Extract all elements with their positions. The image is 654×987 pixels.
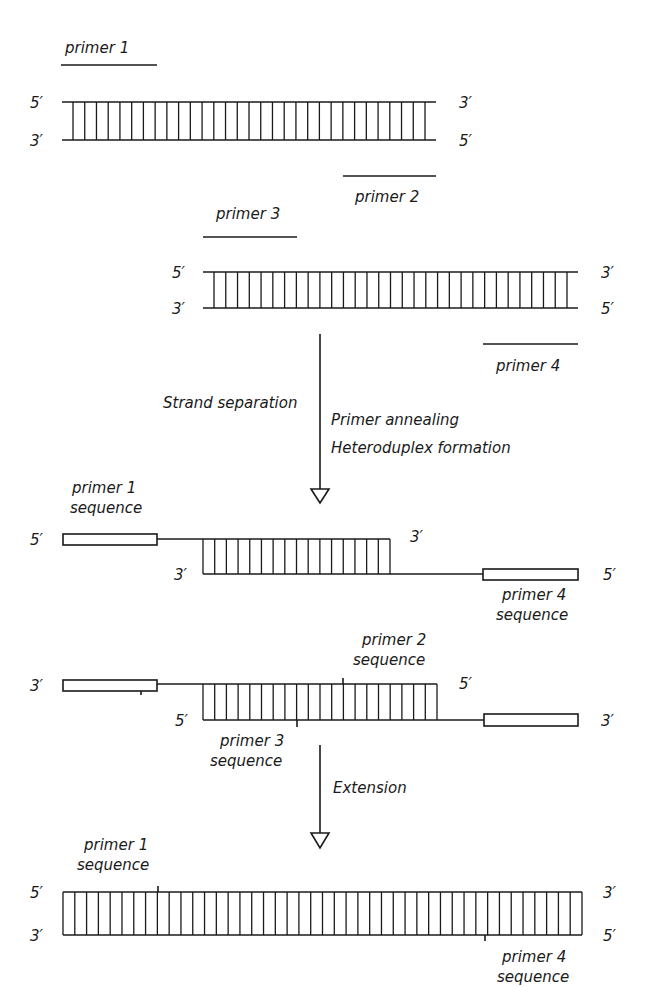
end-label-3prime: 3′ [601, 264, 615, 282]
primer1-sequence-label: sequence [70, 499, 142, 517]
end-label-5prime: 5′ [30, 531, 44, 549]
primer1-sequence-label: primer 1 [71, 479, 136, 497]
base-pair-rungs [63, 892, 582, 935]
primer3-sequence-label: primer 3 [219, 732, 284, 750]
extension-label: Extension [333, 779, 407, 797]
primer3-label: primer 3 [215, 205, 280, 223]
base-pair-rungs [203, 684, 437, 720]
heteroduplex-2: primer 2 sequence 3′ 5′ 5′ 3′ primer 3 s… [30, 631, 615, 770]
end-label-3prime: 3′ [30, 927, 44, 945]
arrow-head-icon [311, 489, 329, 503]
primer1-sequence-label: sequence [77, 856, 149, 874]
step2-arrow: Extension [311, 745, 407, 848]
heteroduplex-formation-label: Heteroduplex formation [331, 439, 511, 457]
primer4-sequence-label: sequence [496, 606, 568, 624]
end-label-3prime: 3′ [30, 132, 44, 150]
primer4-sequence-label: primer 4 [501, 948, 566, 966]
primer1-sequence-label: primer 1 [83, 836, 148, 854]
base-pair-rungs [203, 539, 390, 574]
heteroduplex-1: primer 1 sequence 5′ 3′ 3′ 5′ primer 4 s… [30, 479, 617, 624]
end-label-5prime: 5′ [603, 566, 617, 584]
stage2-duplex: primer 3 5′ 3′ 3′ 5′ primer 4 [172, 205, 615, 375]
end-label-5prime: 5′ [30, 94, 44, 112]
end-label-5prime: 5′ [172, 264, 186, 282]
primer2-sequence-box [63, 680, 157, 691]
primer4-sequence-label: primer 4 [501, 586, 566, 604]
end-label-5prime: 5′ [603, 927, 617, 945]
primer2-label: primer 2 [354, 188, 419, 206]
end-label-5prime: 5′ [459, 132, 473, 150]
end-label-3prime: 3′ [30, 677, 44, 695]
end-label-3prime: 3′ [172, 300, 186, 318]
final-product-duplex: primer 1 sequence 5′ 3′ 3′ 5′ primer 4 s… [30, 836, 617, 986]
end-label-3prime: 3′ [603, 884, 617, 902]
primer-annealing-label: Primer annealing [331, 411, 459, 429]
end-label-5prime: 5′ [30, 884, 44, 902]
primer3-sequence-label: sequence [210, 752, 282, 770]
primer1-label: primer 1 [64, 39, 129, 57]
end-label-3prime: 3′ [410, 528, 424, 546]
primer3-sequence-box [484, 714, 578, 726]
step1-arrow: Strand separation Primer annealing Heter… [163, 334, 511, 503]
primer2-sequence-label: primer 2 [361, 631, 426, 649]
end-label-3prime: 3′ [174, 566, 188, 584]
end-label-5prime: 5′ [601, 300, 615, 318]
stage1-duplex: primer 1 5′ 3′ 3′ 5′ primer 2 [30, 39, 473, 206]
primer4-label: primer 4 [495, 357, 560, 375]
primer2-sequence-label: sequence [353, 651, 425, 669]
primer4-sequence-label: sequence [497, 968, 569, 986]
strand-separation-label: Strand separation [163, 394, 297, 412]
primer1-sequence-box [63, 534, 157, 545]
end-label-3prime: 3′ [459, 94, 473, 112]
end-label-5prime: 5′ [459, 675, 473, 693]
base-pair-rungs [73, 102, 425, 140]
end-label-3prime: 3′ [601, 712, 615, 730]
primer4-sequence-box [483, 569, 578, 580]
base-pair-rungs [214, 272, 567, 308]
arrow-head-icon [311, 833, 329, 848]
end-label-5prime: 5′ [175, 712, 189, 730]
overlap-extension-pcr-diagram: primer 1 5′ 3′ 3′ 5′ primer 2 primer 3 5… [0, 0, 654, 987]
